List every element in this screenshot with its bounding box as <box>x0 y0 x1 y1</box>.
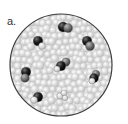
background-particle <box>7 13 14 20</box>
white-atom <box>62 95 68 101</box>
white-atom <box>39 43 46 50</box>
background-particle <box>111 27 118 34</box>
background-particle <box>25 14 33 22</box>
background-particle <box>104 109 111 116</box>
background-particle <box>10 92 17 99</box>
background-particle <box>98 110 106 118</box>
background-particle <box>61 111 68 118</box>
particle-diagram <box>0 0 128 124</box>
background-particle <box>15 9 23 17</box>
background-particle <box>110 38 117 45</box>
background-particle <box>5 31 12 38</box>
background-particle <box>5 22 12 29</box>
background-particle <box>22 7 30 15</box>
background-particle <box>109 99 117 107</box>
background-particle <box>80 63 87 70</box>
background-particle <box>8 110 16 118</box>
background-particle <box>103 27 110 34</box>
background-particle <box>36 61 44 69</box>
background-particle <box>21 14 29 22</box>
gray-atom <box>64 24 73 33</box>
background-particle <box>15 19 23 27</box>
background-particle <box>13 27 21 35</box>
background-particle <box>61 49 69 57</box>
background-particle <box>87 57 94 64</box>
background-particle <box>102 98 110 106</box>
background-particle <box>6 99 13 106</box>
background-particle <box>11 97 19 105</box>
background-particle <box>46 67 53 74</box>
background-particle <box>12 20 19 27</box>
background-particle <box>77 8 84 15</box>
background-particle <box>105 33 113 41</box>
background-particle <box>96 8 103 15</box>
background-particle <box>15 103 22 110</box>
white-atom <box>31 97 38 104</box>
background-particle <box>97 13 105 21</box>
background-particle <box>48 97 56 105</box>
white-atom <box>61 90 67 96</box>
background-particle <box>51 55 59 63</box>
background-particle <box>109 85 117 93</box>
background-particle <box>111 73 118 80</box>
background-particle <box>96 50 103 57</box>
background-particle <box>13 15 21 23</box>
white-atom <box>54 66 60 72</box>
gray-atom <box>21 74 30 83</box>
background-particle <box>41 8 48 15</box>
background-particle <box>21 110 28 117</box>
background-particle <box>84 112 91 119</box>
background-particle <box>94 19 102 27</box>
background-particle <box>91 15 99 23</box>
background-particle <box>108 15 116 23</box>
background-particle <box>28 31 35 38</box>
background-particle <box>4 93 12 101</box>
background-particle <box>106 103 114 111</box>
background-particle <box>26 111 34 119</box>
background-particle <box>106 93 114 101</box>
background-particle <box>51 104 59 112</box>
background-particle <box>107 7 114 14</box>
background-particle <box>11 103 19 111</box>
background-particle <box>6 27 14 35</box>
background-particle <box>30 109 38 117</box>
background-particle <box>100 104 107 111</box>
background-particle <box>12 110 20 118</box>
background-particle <box>94 106 101 113</box>
background-particle <box>6 103 13 110</box>
background-particle <box>108 111 115 118</box>
background-particle <box>87 10 94 17</box>
background-particle <box>100 20 108 28</box>
background-particle <box>78 86 85 93</box>
background-particle <box>23 105 31 113</box>
background-particle <box>105 14 112 21</box>
background-particle <box>3 44 11 52</box>
background-particle <box>91 109 98 116</box>
background-particle <box>4 9 11 16</box>
white-atom <box>89 78 95 84</box>
background-particle <box>100 8 108 16</box>
background-particle <box>29 7 37 15</box>
background-particle <box>4 80 12 88</box>
background-particle <box>83 8 90 15</box>
background-particle <box>19 99 27 107</box>
background-particle <box>7 87 15 95</box>
background-particle <box>57 32 64 39</box>
background-particle <box>9 8 17 16</box>
background-particle <box>34 9 41 16</box>
background-particle <box>72 8 79 15</box>
background-particle <box>50 86 57 93</box>
background-particle <box>75 43 83 51</box>
background-particle <box>107 20 114 27</box>
gray-atom <box>86 42 95 51</box>
background-particle <box>85 13 93 21</box>
